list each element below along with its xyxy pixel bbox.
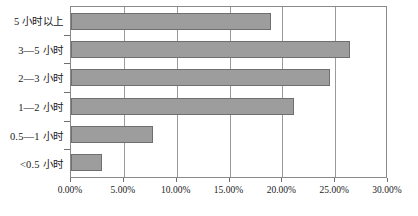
- bar-chart: 5 小时以上 3—5 小时 2—3 小时 1—2 小时 0.5—1 小时 <0.…: [0, 0, 418, 216]
- bar-row: [71, 92, 386, 120]
- category-label: 5 小时以上: [0, 6, 70, 35]
- value-axis-tick-label: 0.00%: [58, 185, 83, 195]
- category-label: 1—2 小时: [0, 92, 70, 121]
- value-axis-tick-label: 25.00%: [320, 185, 349, 195]
- bar: [71, 41, 350, 58]
- value-axis-tick-label: 15.00%: [214, 185, 243, 195]
- category-label: 3—5 小时: [0, 35, 70, 64]
- bar: [71, 154, 102, 171]
- value-axis-labels: 0.00%5.00%10.00%15.00%20.00%25.00%30.00%: [0, 185, 418, 205]
- tick-mark: [281, 178, 282, 182]
- value-axis-tick-label: 5.00%: [111, 185, 136, 195]
- category-label: 0.5—1 小时: [0, 121, 70, 150]
- bar-row: [71, 149, 386, 177]
- category-label: <0.5 小时: [0, 149, 70, 178]
- category-axis-labels: 5 小时以上 3—5 小时 2—3 小时 1—2 小时 0.5—1 小时 <0.…: [0, 6, 70, 178]
- bar-row: [71, 64, 386, 92]
- bar: [71, 98, 294, 115]
- tick-mark: [70, 178, 71, 182]
- value-axis-tick-label: 20.00%: [267, 185, 296, 195]
- category-label: 2—3 小时: [0, 63, 70, 92]
- value-axis-tick-label: 10.00%: [161, 185, 190, 195]
- bar-row: [71, 35, 386, 63]
- tick-mark: [229, 178, 230, 182]
- bar: [71, 13, 271, 30]
- tick-mark: [387, 178, 388, 182]
- bar: [71, 69, 330, 86]
- plot-area: [70, 6, 387, 178]
- bar-row: [71, 7, 386, 35]
- tick-mark: [123, 178, 124, 182]
- tick-mark: [334, 178, 335, 182]
- bar-series: [71, 7, 386, 177]
- bar-row: [71, 120, 386, 148]
- bar: [71, 126, 153, 143]
- tick-mark: [176, 178, 177, 182]
- value-axis-tick-label: 30.00%: [372, 185, 401, 195]
